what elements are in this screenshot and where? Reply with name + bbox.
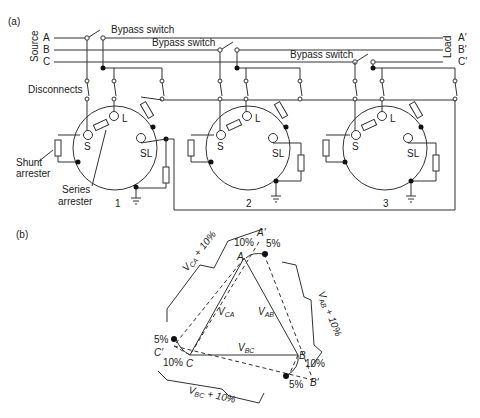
svg-text:Bypass switch: Bypass switch [290, 49, 353, 60]
phase-a-label: A [43, 32, 50, 43]
phase-c-prime-label: C′ [458, 56, 467, 67]
boost-vca-label: VCA + 10% [180, 229, 219, 274]
disconnects-label: Disconnects [28, 84, 82, 95]
load-label: Load [442, 36, 453, 58]
voltage-triangle [190, 258, 298, 355]
boost-vab-label: VAB + 10% [315, 290, 344, 339]
bus-lines [54, 38, 443, 62]
svg-text:2: 2 [246, 198, 252, 209]
svg-text:S: S [217, 141, 224, 152]
vertex-a: A [236, 251, 244, 262]
disconnect-switches [85, 79, 457, 101]
phase-c-label: C [43, 56, 50, 67]
series-arrester-label: Series [62, 184, 90, 195]
panel-b-label: (b) [16, 229, 28, 240]
pct-c-10: 10% [163, 357, 183, 368]
phase-a-prime-label: A′ [458, 32, 467, 43]
svg-text:S: S [352, 141, 359, 152]
source-label: Source [29, 30, 40, 62]
phasor-vbc: VBC [238, 342, 255, 354]
svg-text:L: L [390, 113, 396, 124]
svg-text:arrester: arrester [58, 196, 93, 207]
regulator-3: S L SL 3 [323, 101, 439, 209]
vertex-c: C [186, 358, 194, 369]
phase-b-prime-label: B′ [458, 44, 467, 55]
svg-text:Bypass switch: Bypass switch [152, 37, 215, 48]
svg-text:SL: SL [140, 148, 153, 159]
pct-a-10: 10% [234, 237, 254, 248]
tie-lines [87, 40, 455, 100]
vertex-b-prime: B′ [310, 377, 320, 388]
svg-text:L: L [255, 113, 261, 124]
vertex-a-prime: A′ [256, 227, 267, 238]
regulator-diagram: (a) Source Load A B C A′ B′ C′ Bypass sw… [0, 0, 480, 418]
svg-text:1: 1 [115, 198, 121, 209]
pct-a-5: 5% [266, 238, 281, 249]
svg-text:SL: SL [272, 148, 285, 159]
panel-a-label: (a) [8, 16, 20, 27]
phase-b-label: B [43, 44, 50, 55]
pct-b-5: 5% [289, 379, 304, 390]
svg-text:3: 3 [383, 198, 389, 209]
svg-text:arrester: arrester [16, 168, 51, 179]
pct-b-10: 10% [305, 358, 325, 369]
svg-text:S: S [84, 141, 91, 152]
pct-c-5: 5% [154, 334, 169, 345]
regulator-2: S L SL 2 [188, 101, 304, 209]
svg-text:Bypass switch: Bypass switch [111, 24, 174, 35]
svg-text:SL: SL [407, 148, 420, 159]
phasor-vca: VCA [218, 306, 235, 318]
shunt-arrester-label: Shunt [16, 157, 42, 168]
svg-text:L: L [122, 113, 128, 124]
